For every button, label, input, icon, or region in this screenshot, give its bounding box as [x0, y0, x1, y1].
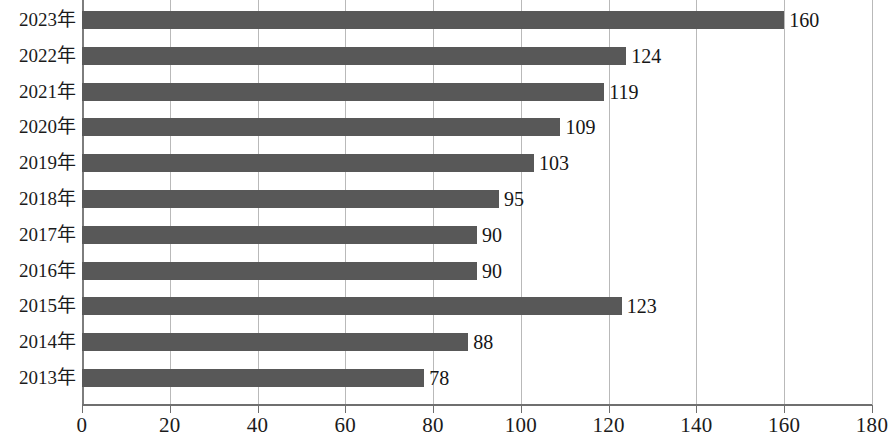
bar-value-label: 90 [482, 224, 502, 246]
x-tick-label: 160 [754, 412, 814, 438]
bar-value-label: 124 [631, 45, 661, 67]
bar [82, 47, 626, 65]
bar [82, 226, 477, 244]
x-tick-label: 100 [491, 412, 551, 438]
x-tick-label: 0 [52, 412, 112, 438]
x-tick-label: 180 [842, 412, 894, 438]
category-label: 2019年 [0, 152, 76, 174]
bar-value-label: 88 [473, 331, 493, 353]
bar [82, 369, 424, 387]
bar-value-label: 103 [539, 152, 569, 174]
bar-value-label: 90 [482, 260, 502, 282]
category-label: 2020年 [0, 116, 76, 138]
x-tick-label: 60 [315, 412, 375, 438]
bar [82, 333, 468, 351]
gridline-140 [696, 0, 697, 405]
x-tick-label: 20 [140, 412, 200, 438]
bar-value-label: 160 [789, 9, 819, 31]
x-tick-label: 80 [403, 412, 463, 438]
bar-value-label: 78 [429, 367, 449, 389]
category-label: 2022年 [0, 45, 76, 67]
bar-value-label: 109 [565, 116, 595, 138]
x-tick-label: 140 [666, 412, 726, 438]
bar [82, 154, 534, 172]
category-label: 2023年 [0, 9, 76, 31]
category-label: 2014年 [0, 331, 76, 353]
x-tick-label: 120 [579, 412, 639, 438]
bar [82, 118, 560, 136]
category-label: 2021年 [0, 81, 76, 103]
bar-value-label: 95 [504, 188, 524, 210]
x-tick-label: 40 [228, 412, 288, 438]
bar-value-label: 123 [627, 295, 657, 317]
x-axis-line [82, 404, 872, 406]
bar-value-label: 119 [609, 81, 638, 103]
category-label: 2015年 [0, 295, 76, 317]
category-label: 2017年 [0, 224, 76, 246]
bar [82, 190, 499, 208]
category-label: 2018年 [0, 188, 76, 210]
bar [82, 11, 784, 29]
bar [82, 262, 477, 280]
category-label: 2016年 [0, 260, 76, 282]
bar [82, 83, 604, 101]
bar [82, 297, 622, 315]
gridline-160 [784, 0, 785, 405]
gridline-180 [872, 0, 873, 405]
category-label: 2013年 [0, 367, 76, 389]
bar-chart: 020406080100120140160180 2023年2022年2021年… [0, 0, 894, 444]
